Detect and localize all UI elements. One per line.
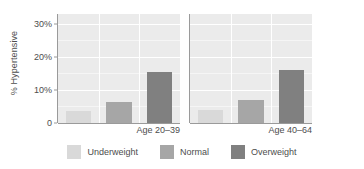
- gridline-major: [190, 24, 312, 25]
- facet-panel-age-20-39: [58, 14, 180, 123]
- y-axis-tick-20pct: 20%: [34, 52, 52, 62]
- y-axis-tick-30pct: 30%: [34, 19, 52, 29]
- gridline-vertical: [271, 14, 272, 123]
- legend-item-overweight[interactable]: Overweight: [231, 145, 297, 159]
- gridline-vertical: [99, 14, 100, 123]
- bar-underweight: [66, 111, 91, 123]
- gridline-vertical: [231, 14, 232, 123]
- gridline-major: [58, 57, 180, 58]
- y-axis-line: [57, 14, 58, 123]
- y-axis-line: [189, 14, 190, 123]
- legend-swatch-overweight: [231, 145, 245, 159]
- bar-normal: [106, 102, 131, 123]
- chart-legend: UnderweightNormalOverweight: [0, 143, 364, 161]
- facet-label-age-20-39: Age 20–39: [58, 125, 180, 135]
- y-axis-title: % Hypertensive: [9, 3, 19, 123]
- gridline-vertical: [139, 14, 140, 123]
- facet-panel-age-40-64: [190, 14, 312, 123]
- legend-label: Underweight: [87, 147, 138, 157]
- legend-swatch-underweight: [67, 145, 81, 159]
- y-axis-tick-10pct: 10%: [34, 85, 52, 95]
- gridline-major: [190, 57, 312, 58]
- legend-label: Normal: [180, 147, 209, 157]
- legend-item-underweight[interactable]: Underweight: [67, 145, 138, 159]
- gridline-major: [58, 24, 180, 25]
- legend-swatch-normal: [160, 145, 174, 159]
- bar-normal: [238, 100, 263, 123]
- y-axis-tick-0: 0: [47, 118, 52, 128]
- gridline-minor: [190, 40, 312, 41]
- hypertension-bar-chart: % Hypertensive 010%20%30% Age 20–39 Age …: [0, 0, 364, 169]
- bar-overweight: [279, 70, 304, 124]
- gridline-minor: [58, 40, 180, 41]
- x-axis-line: [58, 123, 180, 124]
- legend-label: Overweight: [251, 147, 297, 157]
- legend-item-normal[interactable]: Normal: [160, 145, 209, 159]
- facet-label-age-40-64: Age 40–64: [190, 125, 312, 135]
- bar-underweight: [198, 110, 223, 123]
- x-axis-line: [190, 123, 312, 124]
- bar-overweight: [147, 72, 172, 123]
